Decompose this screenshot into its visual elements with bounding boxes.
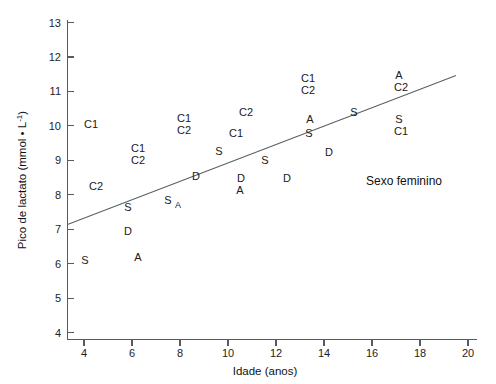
y-tick-label-7: 7 [55,223,61,235]
plot-canvas: 13 12 11 10 9 8 7 6 5 4 4 6 8 10 12 [0,0,496,384]
y-tick-label-12: 12 [49,51,61,63]
y-axis-title: Pico de lactato (mmol • L-1) [15,111,29,250]
y-tick-label-4: 4 [55,327,61,339]
x-tick-label-16: 16 [366,347,378,359]
x-tick-label-18: 18 [414,347,426,359]
data-point-label: C1 [177,112,191,124]
data-point-label: C2 [239,106,253,118]
data-point-label: S [350,106,357,118]
data-point-label: S [215,145,222,157]
data-point-label: S [261,154,268,166]
data-point-label: C2 [131,154,145,166]
x-tick-label-8: 8 [177,347,183,359]
data-point-label: C1 [131,142,145,154]
x-tick-label-10: 10 [222,347,234,359]
data-point-label: D [192,170,200,182]
data-point-label: C1 [84,118,98,130]
x-axis-ticks: 4 6 8 10 12 14 16 18 20 [81,340,474,360]
data-point-label: C1 [229,127,243,139]
y-axis-title-main: Pico de lactato (mmol • L [16,121,28,249]
data-point-label: C1 [394,125,408,137]
x-tick-label-14: 14 [318,347,330,359]
data-point-label: C1 [301,72,315,84]
y-axis-ticks: 13 12 11 10 9 8 7 6 5 4 [49,17,74,339]
data-point-label: S [305,127,312,139]
y-axis-title-tail: ) [16,111,28,115]
y-tick-label-13: 13 [49,17,61,29]
data-point-label: S [164,194,171,206]
data-point-label: S [395,113,402,125]
data-point-label: C2 [177,124,191,136]
y-axis-title-group: Pico de lactato (mmol • L-1) [15,111,29,250]
y-tick-label-6: 6 [55,258,61,270]
data-point-label: C2 [89,180,103,192]
lactate-vs-age-scatter-figure: 13 12 11 10 9 8 7 6 5 4 4 6 8 10 12 [0,0,496,384]
x-axis-title: Idade (anos) [233,365,298,377]
data-point-label: D [124,225,132,237]
y-tick-label-11: 11 [50,85,61,97]
data-point-label: A [236,184,244,196]
x-tick-label-4: 4 [81,347,87,359]
x-tick-label-12: 12 [270,347,282,359]
x-tick-label-20: 20 [462,347,474,359]
data-points-group: C1 C2 S D S C1 C2 A S A C1 C2 D S C2 C1 … [81,69,408,266]
y-tick-label-10: 10 [49,120,61,132]
data-point-label: D [325,146,333,158]
data-point-label: C2 [301,84,315,96]
data-point-label: C2 [394,81,408,93]
data-point-label: A [306,113,314,125]
data-point-label: A [134,251,142,263]
data-point-label: A [175,200,181,210]
y-tick-label-9: 9 [55,154,61,166]
group-annotation: Sexo feminino [366,174,442,188]
data-point-label: S [81,254,88,266]
x-tick-label-6: 6 [129,347,135,359]
y-tick-label-8: 8 [55,189,61,201]
data-point-label: D [283,172,291,184]
data-point-label: S [124,201,131,213]
y-tick-label-5: 5 [55,292,61,304]
data-point-label: D [237,172,245,184]
data-point-label: A [395,69,403,81]
